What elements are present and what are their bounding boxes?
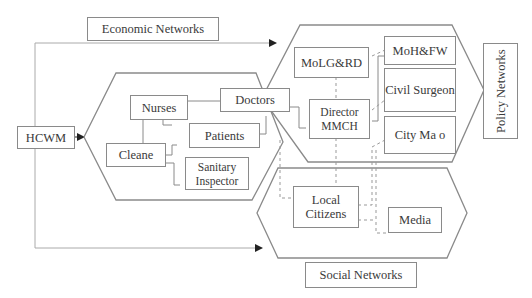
node-civil-surgeon: Civil Surgeon xyxy=(384,68,456,112)
node-doctors: Doctors xyxy=(220,88,290,112)
node-sanitary-inspector: Sanitary Inspector xyxy=(185,157,249,190)
node-cleane: Cleane xyxy=(106,143,166,167)
policy-networks-label: Policy Networks xyxy=(483,43,518,139)
social-networks-label: Social Networks xyxy=(305,262,417,288)
node-mohfw: MoH&FW xyxy=(384,36,456,65)
node-media: Media xyxy=(388,207,442,233)
node-patients: Patients xyxy=(189,123,260,148)
economic-networks-label: Economic Networks xyxy=(87,17,219,41)
node-local-citizens: Local Citizens xyxy=(293,186,359,228)
node-hcwm: HCWM xyxy=(17,126,75,149)
node-city-mayor: City Ma o xyxy=(384,116,456,154)
node-director-mmch: Director MMCH xyxy=(309,99,370,139)
node-molgrd: MoLG&RD xyxy=(294,47,369,78)
node-nurses: Nurses xyxy=(130,95,188,120)
